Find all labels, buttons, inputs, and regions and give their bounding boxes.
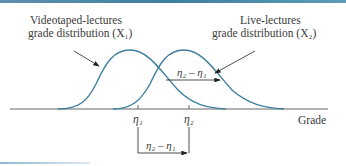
axis-label-grade: Grade bbox=[298, 114, 326, 127]
x1-title-line2: grade distribution (X₁) bbox=[28, 27, 132, 40]
x2-title-line2: grade distribution (X₂) bbox=[212, 27, 316, 40]
x2-pointer-arrow bbox=[215, 51, 255, 73]
x1-distribution-curve bbox=[58, 50, 226, 109]
eta2-label: η₂ bbox=[184, 113, 194, 126]
x1-pointer-arrow bbox=[74, 51, 99, 66]
x2-title-line1: Live-lectures bbox=[240, 14, 301, 27]
x1-title-line1: Videotaped-lectures bbox=[30, 14, 122, 27]
lower-shift-label: η₂ – η₁ bbox=[146, 139, 176, 152]
eta1-label: η₁ bbox=[133, 113, 143, 126]
upper-shift-label: η₂ – η₁ bbox=[177, 66, 207, 79]
bottom-accent-bar bbox=[0, 162, 90, 164]
x2-distribution-curve bbox=[113, 50, 284, 109]
